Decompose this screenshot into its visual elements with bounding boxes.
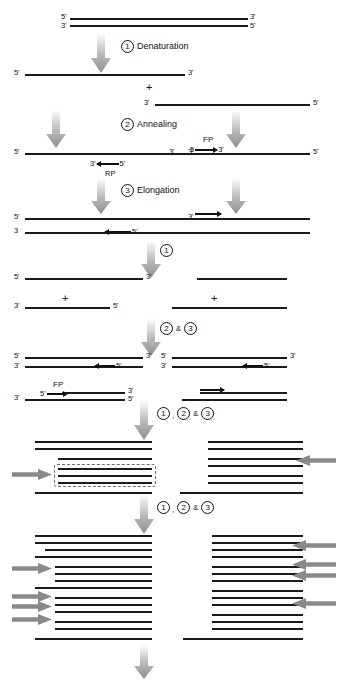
- annealing-left-template: [25, 153, 185, 155]
- caption-elongation-label: Elongation: [137, 186, 180, 195]
- step-number-1: 1: [121, 40, 134, 53]
- annealing-left-5prime: 5': [14, 148, 19, 156]
- ampB-left-line-10: [55, 604, 152, 606]
- template-bottom-strand: [70, 25, 248, 27]
- forward-primer-group: 5 3': [190, 146, 224, 154]
- template-top-right-3prime: 3': [250, 13, 255, 21]
- ampB-left-line-2: [35, 542, 152, 544]
- caption-denaturation: 1 Denaturation: [121, 40, 189, 53]
- cycle1-left-bottom-5prime: 5': [113, 302, 118, 310]
- target-amplicon-highlight-box: [54, 464, 156, 487]
- down-arrow-elongation-left: [90, 178, 112, 214]
- cycle2-right-a-rp-5prime: 5': [264, 362, 270, 370]
- cycle2-right-a-3prime-left: 3': [161, 362, 166, 370]
- ampB-right-line-11: [212, 614, 303, 616]
- ampB-right-line-3: [212, 549, 303, 551]
- cycle2-right-a-5prime: 5': [161, 352, 166, 360]
- reverse-primer-label: RP: [105, 170, 115, 178]
- ampB-left-line-13: [55, 628, 152, 630]
- cycle1-right-bottom-strand: [172, 307, 287, 309]
- plus-sign-row2: +: [146, 82, 152, 93]
- ampB-right-line-4: [212, 556, 303, 558]
- caption-cycle-1: 1: [160, 244, 173, 257]
- ampA-right-line-1: [208, 441, 303, 443]
- cycle2-left-a-3prime-left: 3': [14, 362, 19, 370]
- step-number-1-b: 1: [157, 501, 170, 514]
- down-arrow-elongation-right: [225, 178, 247, 214]
- down-arrow-cycle-2and3: [140, 318, 162, 356]
- gray-pointer-right-ampB-4: [292, 598, 336, 609]
- ampB-left-line-3: [45, 549, 152, 551]
- ampB-left-line-6: [55, 573, 152, 575]
- gray-pointer-left-ampB-1: [12, 563, 52, 574]
- fp-3prime-label: 3': [218, 146, 224, 154]
- cycle2-left-a-bottom: [25, 366, 143, 368]
- cycle2-left-fp-label: FP: [53, 381, 63, 389]
- step-number-1-a: 1: [157, 407, 170, 420]
- denatured-bottom-right-5prime: 5': [313, 99, 318, 107]
- ampB-right-line-6: [212, 573, 303, 575]
- down-arrow-annealing-right: [225, 110, 247, 148]
- ampB-left-line-9: [55, 597, 152, 599]
- cycle2-left-a-top: [25, 357, 143, 359]
- ampA-left-line-1: [35, 441, 152, 443]
- cycle2-left-b-3prime-left: 3': [14, 394, 19, 402]
- comma-a: ,: [172, 412, 174, 420]
- ampB-right-line-12: [212, 621, 303, 623]
- elongation-left-bottom-3: 3: [14, 227, 18, 235]
- step-number-1-repeat: 1: [160, 244, 173, 257]
- ampA-right-line-2: [208, 448, 303, 450]
- ampA-right-line-3: [208, 458, 303, 460]
- step-number-2-b: 2: [177, 501, 190, 514]
- cycle2-left-a-rp-group: 5': [95, 362, 122, 370]
- ampB-left-line-8: [35, 587, 152, 589]
- ampA-right-line-7: [180, 492, 303, 494]
- elongation-left-top-5prime: 5': [14, 213, 19, 221]
- template-top-left-5prime: 5': [61, 13, 66, 21]
- cycle2-left-b-bottom: [25, 399, 125, 401]
- cycle2-right-b-top: [200, 392, 287, 394]
- ampB-right-line-7: [212, 580, 303, 582]
- caption-cycle-2and3: 2 & 3: [160, 322, 197, 335]
- step-number-3-b: 3: [201, 501, 214, 514]
- ampB-right-line-9: [212, 597, 303, 599]
- ampA-left-line-2: [35, 448, 152, 450]
- fp-arrow-icon: [195, 147, 217, 153]
- step-number-3-a: 3: [201, 407, 214, 420]
- caption-cycle-1-2and3-b: 1 , 2 & 3: [157, 501, 214, 514]
- down-arrow-annealing-left: [45, 110, 67, 148]
- forward-primer-label: FP: [203, 136, 213, 144]
- gray-pointer-left-ampA: [12, 469, 52, 480]
- template-bottom-right-5prime: 5': [250, 22, 255, 30]
- pcr-diagram: 5' 3' 3' 5' 1 Denaturation 5' 3' + 3' 5': [0, 0, 338, 680]
- ampB-right-line-14: [183, 638, 303, 640]
- ampA-right-line-6: [208, 482, 303, 484]
- elongation-right-fp-arrow-icon: [195, 211, 221, 217]
- cycle2-left-a-5prime: 5': [14, 352, 19, 360]
- cycle1-left-top-5prime: 5': [14, 273, 19, 281]
- annealing-right-3prime: 3': [169, 148, 174, 156]
- ampB-left-line-7: [55, 580, 152, 582]
- ampB-left-line-12: [55, 621, 152, 623]
- reverse-primer-group: 3' 5': [90, 160, 125, 168]
- elongation-right-bottom: [180, 232, 310, 234]
- caption-annealing: 2 Annealing: [121, 118, 177, 131]
- cycle2-left-a-3prime-right: 3': [146, 352, 151, 360]
- cycle1-left-bottom-3prime: 3': [14, 302, 19, 310]
- denatured-top-right-3prime: 3': [188, 69, 193, 77]
- denatured-strand-top: [25, 74, 185, 76]
- cycle2-right-a-rp-group: 5': [243, 362, 270, 370]
- elongation-left-top: [25, 218, 185, 220]
- fp-5-label: 5: [190, 146, 194, 154]
- elongation-right-top: [180, 218, 310, 220]
- cycle2-left-b-fp-5prime: 5': [40, 390, 46, 398]
- ampB-right-line-5: [212, 566, 303, 568]
- ampA-right-line-4: [208, 465, 303, 467]
- down-arrow-cycle-1-2and3-b: [133, 494, 155, 534]
- caption-elongation: 3 Elongation: [121, 184, 180, 197]
- ampB-left-line-1: [35, 535, 152, 537]
- step-number-3-repeat: 3: [184, 322, 197, 335]
- gray-pointer-left-ampB-3: [12, 601, 52, 612]
- cycle2-right-a-rp-arrow-icon: [243, 363, 263, 369]
- step-number-3: 3: [121, 184, 134, 197]
